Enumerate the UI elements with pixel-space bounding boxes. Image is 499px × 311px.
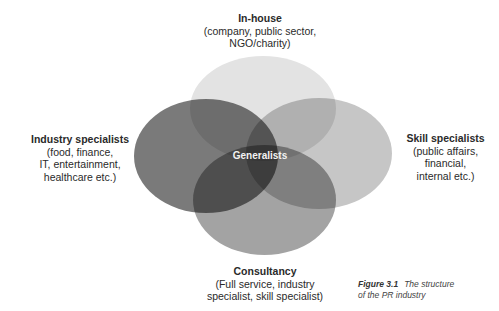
figure-caption: Figure 3.1The structure of the PR indust… <box>358 279 454 301</box>
label-title: In-house <box>180 12 340 25</box>
center-label-generalists: Generalists <box>220 150 300 161</box>
label-in-house: In-house (company, public sector, NGO/ch… <box>180 12 340 50</box>
label-detail: internal etc.) <box>392 170 499 183</box>
label-title: Consultancy <box>185 265 345 278</box>
label-industry-specialists: Industry specialists (food, finance, IT,… <box>20 133 140 183</box>
label-detail: (Full service, industry <box>185 278 345 291</box>
label-title: Skill specialists <box>392 132 499 145</box>
label-detail: healthcare etc.) <box>20 171 140 184</box>
label-detail: specialist, skill specialist) <box>185 290 345 303</box>
label-detail: financial, <box>392 157 499 170</box>
label-detail: NGO/charity) <box>180 37 340 50</box>
label-title: Industry specialists <box>20 133 140 146</box>
caption-text-line1: The structure <box>404 279 454 289</box>
label-consultancy: Consultancy (Full service, industry spec… <box>185 265 345 303</box>
figure-number: Figure 3.1 <box>358 279 398 289</box>
label-detail: (public affairs, <box>392 145 499 158</box>
caption-text-line2: of the PR industry <box>358 290 454 301</box>
label-detail: IT, entertainment, <box>20 158 140 171</box>
label-detail: (food, finance, <box>20 146 140 159</box>
label-detail: (company, public sector, <box>180 25 340 38</box>
label-skill-specialists: Skill specialists (public affairs, finan… <box>392 132 499 182</box>
